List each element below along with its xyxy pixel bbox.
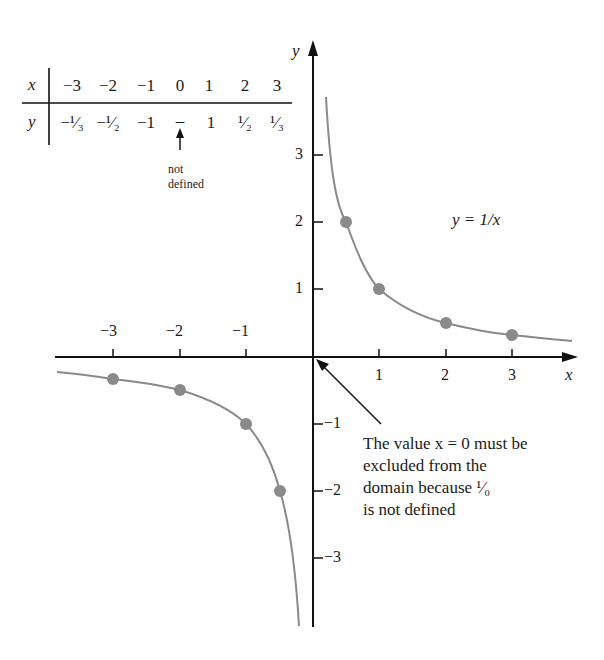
x-tick-label: 3	[508, 367, 516, 383]
annotation-line: is not defined	[363, 499, 527, 521]
x-tick-label: −2	[166, 323, 183, 339]
point-x-half	[340, 216, 352, 228]
annotation-line: domain because ¹⁄₀	[363, 477, 527, 499]
point-x-neg2	[174, 384, 186, 396]
table-y-cell: −¹⁄₃	[55, 113, 89, 133]
plot-canvas	[0, 0, 604, 660]
table-x-cell: 3	[260, 76, 294, 96]
point-x-2	[440, 317, 452, 329]
table-y-cell: ¹⁄₂	[228, 113, 262, 133]
curve-right-smooth	[326, 97, 572, 341]
x-tick-label: 2	[441, 367, 449, 383]
x-axis-label: x	[565, 366, 573, 383]
point-x-neg1	[240, 418, 252, 430]
table-y-label: y	[28, 113, 36, 130]
annotation-line: excluded from the	[363, 455, 527, 477]
table-x-cell: −2	[91, 76, 125, 96]
point-x-neg-half	[274, 485, 286, 497]
x-tick-label: 1	[375, 367, 383, 383]
annotation-line: The value x = 0 must be	[363, 433, 527, 455]
y-axis-label: y	[292, 42, 300, 59]
point-x-3	[506, 329, 518, 341]
x-axis-arrow-icon	[562, 352, 578, 362]
table-y-cell: −¹⁄₂	[91, 113, 125, 133]
table-y-cell-undefined: –	[163, 111, 197, 131]
equation-label: y = 1/x	[452, 211, 500, 228]
table-x-cell: −1	[129, 76, 163, 96]
y-tick-label: 3	[295, 146, 303, 162]
domain-annotation: The value x = 0 must beexcluded from the…	[363, 433, 527, 521]
not-defined-label-2: defined	[168, 178, 204, 190]
not-defined-label: not	[168, 163, 183, 175]
curve-left-smooth	[57, 372, 299, 626]
table-x-cell: −3	[55, 76, 89, 96]
x-tick-label: −1	[232, 323, 249, 339]
y-tick-label: −1	[324, 415, 341, 431]
table-y-cell: ¹⁄₃	[260, 113, 294, 133]
y-tick-label: −2	[324, 482, 341, 498]
table-x-cell: 2	[228, 76, 262, 96]
y-tick-label: 1	[295, 280, 303, 296]
table-x-cell: 1	[192, 76, 226, 96]
y-tick-label: −3	[324, 549, 341, 565]
table-y-cell: 1	[194, 113, 228, 133]
y-axis-arrow-icon	[308, 40, 318, 56]
point-x-neg3	[107, 373, 119, 385]
y-tick-label: 2	[295, 213, 303, 229]
table-y-cell: −1	[129, 113, 163, 133]
point-x-1	[373, 283, 385, 295]
table-x-label: x	[28, 76, 36, 93]
x-tick-label: −3	[100, 323, 117, 339]
